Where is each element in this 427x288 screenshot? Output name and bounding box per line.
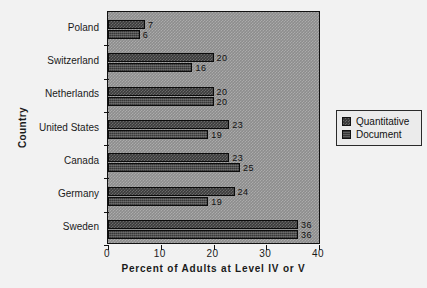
bar-quantitative [108,87,214,96]
bar-value-label: 7 [148,21,154,30]
bar-value-label: 20 [217,98,228,107]
bar-value-label: 19 [211,131,222,140]
country-label-sweden: Sweden [0,222,103,232]
bar-quantitative [108,53,214,62]
plot-area: 76201620202319232524193636 [107,11,320,244]
legend-item-document[interactable]: Document [342,128,417,141]
x-axis-ticklabel: 10 [145,248,175,259]
country-label-netherlands: Netherlands [0,89,103,99]
y-axis-tick [104,79,109,80]
bar-quantitative [108,153,229,162]
legend-swatch-icon [342,130,351,139]
bar-value-label: 36 [301,221,312,230]
country-label-switzerland: Switzerland [0,56,103,66]
country-label-canada: Canada [0,156,103,166]
legend-swatch-icon [342,117,351,126]
bar-value-label: 6 [143,31,149,40]
bar-quantitative [108,220,298,229]
x-axis-title: Percent of Adults at Level IV or V [107,263,320,274]
bar-document [108,163,240,172]
chart-figure: Country PolandSwitzerlandNetherlandsUnit… [0,0,427,288]
bar-document [108,63,192,72]
bar-value-label: 20 [217,54,228,63]
country-label-germany: Germany [0,189,103,199]
bar-quantitative [108,120,229,129]
bar-value-label: 24 [238,188,249,197]
bar-quantitative [108,187,235,196]
bar-value-label: 20 [217,88,228,97]
country-label-poland: Poland [0,23,103,33]
x-axis-ticklabel: 0 [92,248,122,259]
bar-value-label: 19 [211,198,222,207]
country-label-united-states: United States [0,123,103,133]
x-axis-ticklabel: 20 [198,248,228,259]
y-axis-tick [104,178,109,179]
chart-legend: QuantitativeDocument [336,110,422,146]
bar-value-label: 23 [232,154,243,163]
bar-document [108,130,208,139]
y-axis-labels: PolandSwitzerlandNetherlandsUnited State… [0,11,103,244]
bar-document [108,30,140,39]
y-axis-tick [104,212,109,213]
bar-value-label: 16 [195,64,206,73]
bar-value-label: 25 [243,164,254,173]
bar-document [108,197,208,206]
legend-item-quantitative[interactable]: Quantitative [342,115,417,128]
legend-label: Document [356,129,402,140]
bar-document [108,230,298,239]
legend-label: Quantitative [356,116,409,127]
x-axis-ticklabel: 30 [250,248,280,259]
bar-value-label: 36 [301,231,312,240]
x-axis-ticklabel: 40 [303,248,333,259]
y-axis-tick [104,145,109,146]
bar-quantitative [108,20,145,29]
y-axis-tick [104,45,109,46]
y-axis-tick [104,112,109,113]
bar-document [108,97,214,106]
bar-value-label: 23 [232,121,243,130]
